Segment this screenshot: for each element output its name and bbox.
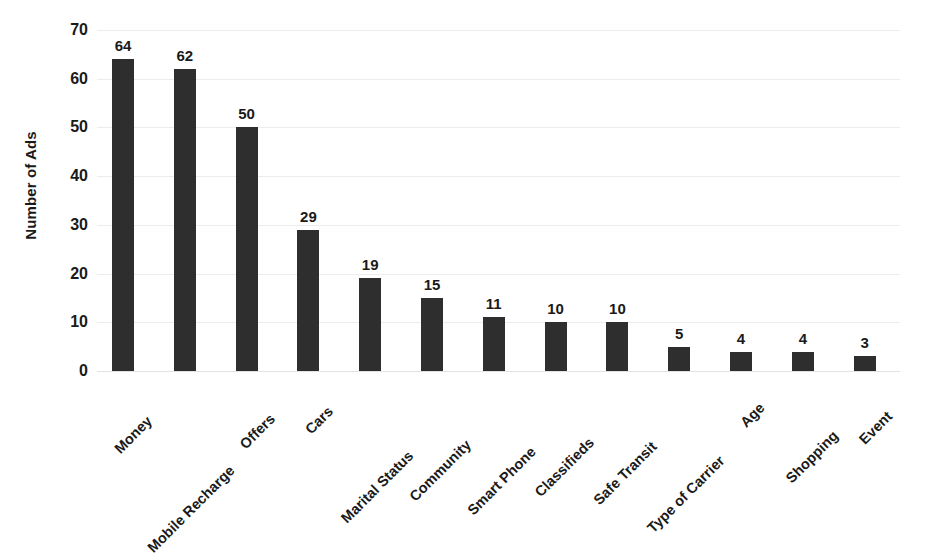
bar[interactable] [421,298,443,371]
y-tick-label: 60 [44,71,88,87]
x-tick-label-text: Type of Carrier [645,453,727,535]
plot-area: 6462502919151110105443 [97,30,900,371]
bar-group[interactable]: 19 [359,30,381,371]
x-tick-label-text: Money [112,413,155,456]
bar[interactable] [297,230,319,371]
bar-group[interactable]: 4 [792,30,814,371]
bar-value-label: 29 [278,209,338,224]
bar-value-label: 11 [464,296,524,311]
bar-group[interactable]: 10 [545,30,567,371]
bar-group[interactable]: 64 [112,30,134,371]
bar-group[interactable]: 10 [606,30,628,371]
y-tick-label: 20 [44,266,88,282]
bar-value-label: 4 [711,331,771,346]
y-tick-label: 0 [44,363,88,379]
bar-group[interactable]: 4 [730,30,752,371]
y-axis-tick-labels: 010203040506070 [40,30,88,371]
x-tick-label-text: Cars [303,404,336,437]
bar-group[interactable]: 62 [174,30,196,371]
bar[interactable] [792,352,814,371]
bar-value-label: 19 [340,257,400,272]
bar-group[interactable]: 29 [297,30,319,371]
y-tick-label: 40 [44,168,88,184]
bar-value-label: 64 [93,38,153,53]
x-tick-label-text: Mobile Recharge [145,463,237,555]
bar[interactable] [668,347,690,371]
bar-value-label: 10 [526,301,586,316]
bar-group[interactable]: 3 [854,30,876,371]
bar-value-label: 5 [649,326,709,341]
bar[interactable] [174,69,196,371]
y-tick-label: 50 [44,119,88,135]
x-tick-label: Money [144,381,187,424]
bar[interactable] [359,278,381,371]
bar-value-label: 50 [217,106,277,121]
bar-value-label: 3 [835,335,895,350]
bar[interactable] [112,59,134,371]
x-tick-label-text: Safe Transit [591,439,659,507]
y-tick-label: 30 [44,217,88,233]
x-tick-label-text: Shopping [783,428,841,486]
bar-value-label: 10 [587,301,647,316]
x-tick-label: Cars [326,381,359,414]
x-axis-tick-labels: MoneyMobile RechargeOffersCarsMarital St… [97,371,900,527]
bar-group[interactable]: 11 [483,30,505,371]
y-tick-label: 70 [44,22,88,38]
y-tick-label: 10 [44,314,88,330]
y-axis-title-text: Number of Ads [22,131,39,239]
bar[interactable] [545,322,567,371]
bar-value-label: 4 [773,331,833,346]
bar[interactable] [483,317,505,371]
bar-group[interactable]: 50 [236,30,258,371]
bar-value-label: 62 [155,48,215,63]
bar[interactable] [606,322,628,371]
x-tick-label-text: Smart Phone [465,444,538,517]
x-tick-label: Event [884,381,922,419]
bar-group[interactable]: 5 [668,30,690,371]
bar-group[interactable]: 15 [421,30,443,371]
bar[interactable] [730,352,752,371]
bar-value-label: 15 [402,277,462,292]
bar[interactable] [236,127,258,371]
x-tick-label-text: Marital Status [339,448,416,525]
x-tick-label: Safe Transit [649,381,717,449]
bar[interactable] [854,356,876,371]
x-tick-label: Type of Carrier [717,381,799,463]
